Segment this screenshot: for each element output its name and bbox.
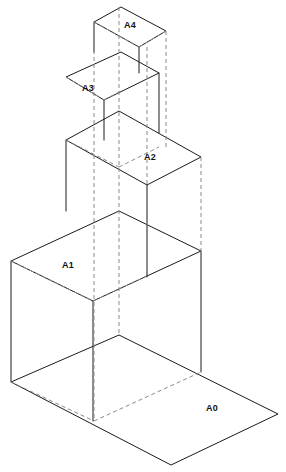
sheet-group-a3: [66, 52, 159, 100]
sheet-face-a3: [66, 52, 159, 100]
sheet-group-a0: [11, 335, 278, 465]
sheet-label-a2: A2: [144, 152, 156, 162]
sheet-label-a3: A3: [82, 83, 94, 93]
sheet-group-a2: [66, 111, 201, 185]
sheet-face-a0: [11, 335, 278, 465]
sheet-face-a2: [66, 111, 201, 185]
diagram-canvas: A0 A1 A2 A3 A4: [0, 0, 286, 472]
isometric-paper-size-diagram: A0 A1 A2 A3 A4: [0, 0, 286, 472]
sheet-label-a4: A4: [124, 20, 136, 30]
sheet-group-a1: [11, 211, 201, 301]
sheet-label-a0: A0: [206, 403, 218, 413]
sheet-label-a1: A1: [62, 260, 74, 270]
sheet-face-a1: [11, 211, 201, 301]
